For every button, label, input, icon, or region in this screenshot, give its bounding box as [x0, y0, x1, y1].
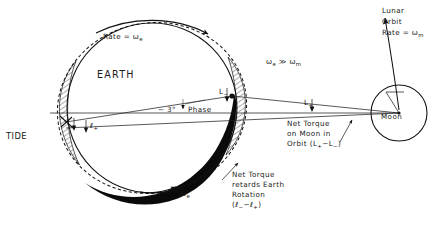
force-vector-l-minus [72, 118, 76, 131]
omega-comparison-label: ωe ≫ ωm [266, 57, 302, 67]
moon-hook-line [386, 92, 404, 113]
phase-angle-leader [185, 100, 205, 104]
phase-label: Phase [188, 105, 212, 114]
force-line-upper [232, 96, 399, 113]
torque-earth-line1: Net Torque [232, 170, 275, 179]
earth-rate-label: Rate = ωe [103, 32, 143, 42]
torque-moon-leader-arrow [340, 120, 352, 142]
torque-earth-line2: retards Earth [232, 180, 284, 189]
torque-earth-line4: (ℓ−−ℓ+) [232, 200, 261, 210]
diagram-canvas: Rate = ωe EARTH TIDE ~ 3° Phase ωe ≫ ωm … [0, 0, 443, 226]
earth-label: EARTH [97, 69, 135, 80]
lunar-orbit-label-line1: Lunar [382, 6, 404, 15]
phase-angle-label: ~ 3° [158, 105, 176, 114]
torque-moon-line1: Net Torque [287, 119, 330, 128]
tidal-torque-diagram: Rate = ωe EARTH TIDE ~ 3° Phase ωe ≫ ωm … [0, 0, 443, 226]
tidal-bulge-ellipse [41, 5, 262, 211]
force-label-l-plus: ℓ+ [89, 121, 98, 131]
lunar-orbit-label-line2: Orbit [382, 17, 402, 26]
lunar-orbit-label-line3: Rate = ωm [382, 28, 424, 38]
moon-label: Moon [381, 112, 402, 121]
torque-moon-line3: Orbit (L+−L−) [287, 139, 341, 149]
tide-label: TIDE [5, 131, 27, 141]
torque-earth-line3: Rotation [232, 190, 265, 199]
torque-moon-line2: on Moon in [287, 129, 331, 138]
force-vector-l-plus [84, 120, 88, 133]
bulge-node-right [229, 93, 234, 98]
